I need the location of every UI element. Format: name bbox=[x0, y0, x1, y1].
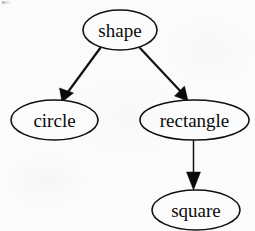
edge-rectangle-to-square[interactable] bbox=[187, 140, 201, 190]
edge-rectangle-to-square-arrowhead bbox=[187, 172, 201, 190]
edge-shape-to-circle[interactable] bbox=[60, 47, 102, 102]
edge-shape-to-rectangle-line bbox=[139, 47, 184, 95]
node-layer: shape circle rectangle square bbox=[11, 10, 249, 230]
edge-shape-to-circle-line bbox=[65, 47, 101, 96]
node-circle[interactable]: circle bbox=[11, 100, 98, 140]
node-circle-label: circle bbox=[33, 110, 75, 131]
node-rectangle[interactable]: rectangle bbox=[140, 100, 249, 140]
node-rectangle-label: rectangle bbox=[160, 110, 230, 131]
node-square[interactable]: square bbox=[152, 190, 240, 230]
edge-shape-to-rectangle[interactable] bbox=[139, 47, 188, 101]
node-shape[interactable]: shape bbox=[83, 10, 157, 50]
node-square-label: square bbox=[171, 200, 221, 221]
node-shape-label: shape bbox=[98, 20, 141, 41]
diagram-canvas: shape circle rectangle square bbox=[0, 0, 255, 231]
shape-hierarchy-graph: shape circle rectangle square bbox=[0, 0, 255, 231]
